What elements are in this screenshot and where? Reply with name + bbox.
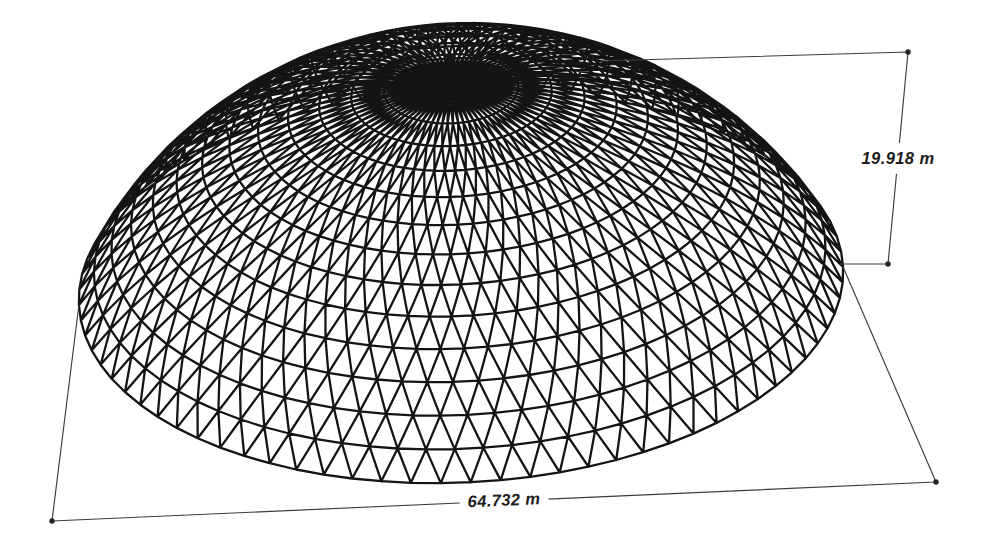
dome-mesh	[79, 23, 843, 483]
height-dimension-label: 19.918 m	[854, 143, 943, 174]
dimension-end-dot	[905, 49, 910, 54]
dome-wireframe-drawing	[0, 0, 990, 557]
dome-figure: 19.918 m 64.732 m	[0, 0, 990, 557]
span-dimension-label: 64.732 m	[459, 483, 549, 517]
dimension-end-dot	[49, 518, 54, 523]
dimension-end-dot	[933, 479, 938, 484]
dimension-end-dot	[885, 261, 890, 266]
dome-mesh-path	[79, 23, 843, 483]
